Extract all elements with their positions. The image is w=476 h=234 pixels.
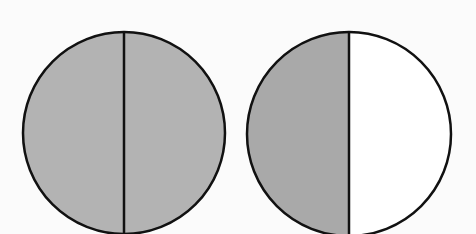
circle-half-shaded (247, 32, 451, 234)
fraction-diagram (0, 0, 476, 234)
circle-2-shaded-half (247, 32, 349, 234)
circle-fully-shaded (23, 32, 225, 234)
